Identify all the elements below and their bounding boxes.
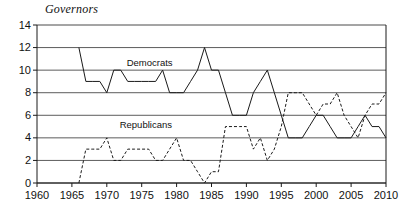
y-axis-label-10: 10 <box>3 65 31 76</box>
x-axis-ticks <box>37 183 386 187</box>
y-axis-label-14: 14 <box>3 20 31 31</box>
y-axis-label-6: 6 <box>3 110 31 121</box>
x-axis-label-2010: 2010 <box>366 190 405 201</box>
plot-area <box>0 0 405 210</box>
y-axis-label-12: 12 <box>3 42 31 53</box>
series-annotation-democrats: Democrats <box>125 57 175 68</box>
y-axis-label-4: 4 <box>3 132 31 143</box>
y-axis-label-0: 0 <box>3 178 31 189</box>
governors-line-chart: Governors 02468101214 196019651970197519… <box>0 0 405 210</box>
y-axis-label-8: 8 <box>3 87 31 98</box>
y-axis-label-2: 2 <box>3 155 31 166</box>
y-axis-ticks <box>33 25 37 183</box>
series-annotation-republicans: Republicans <box>118 119 174 130</box>
gridlines <box>37 25 386 183</box>
